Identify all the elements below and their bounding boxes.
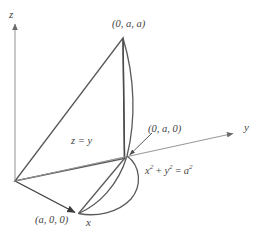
math-figure-3d-solid: z y x (0, a, a) z = y (0, a, 0) (a, 0, 0… [0, 0, 265, 239]
x-axis-label: x [86, 217, 91, 228]
x-axis-line [15, 181, 75, 213]
plane-z-equals-y-face [15, 38, 125, 181]
cylinder-vertical-edge [123, 38, 125, 159]
base-point-label: (0, a, 0) [148, 124, 181, 135]
eq-plus: + [153, 165, 164, 176]
apex-point-label: (0, a, a) [112, 19, 145, 30]
cylinder-equation-label: x2 + y2 = a2 [145, 164, 193, 176]
base-radius-to-y-point [15, 157, 127, 182]
eq-equals: = [173, 165, 184, 176]
eq-a-exponent: 2 [189, 163, 193, 171]
x-axis-point-label: (a, 0, 0) [35, 215, 68, 226]
plane-equation-label: z = y [71, 136, 92, 147]
z-axis-label: z [9, 9, 13, 20]
figure-canvas [0, 0, 265, 239]
y-axis-label: y [244, 122, 249, 133]
